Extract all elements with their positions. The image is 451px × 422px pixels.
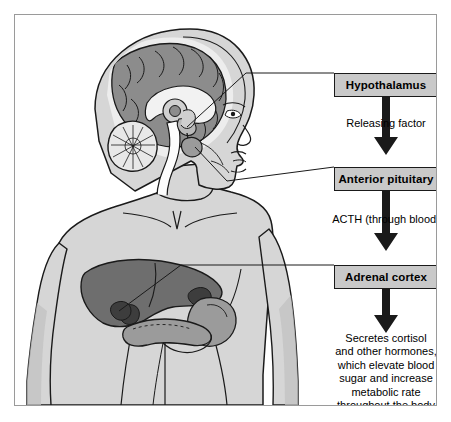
outcome-line-5: metabolic rate (311, 386, 437, 399)
arrow-secretion (374, 289, 398, 333)
flow-box-anterior-pituitary[interactable]: Anterior pituitary (334, 167, 437, 191)
outcome-line-4: sugar and increase (311, 372, 437, 385)
flow-box-adrenal-cortex[interactable]: Adrenal cortex (334, 265, 437, 289)
outcome-text-block: Secretes cortisol and other hormones, wh… (311, 332, 437, 406)
outcome-line-3: which elevate blood (311, 359, 437, 372)
flow-box-hypothalamus-label: Hypothalamus (346, 79, 426, 91)
flow-box-hypothalamus[interactable]: Hypothalamus (334, 73, 437, 97)
flow-box-adrenal-cortex-label: Adrenal cortex (345, 271, 427, 283)
outcome-line-1: Secretes cortisol (311, 332, 437, 345)
flow-box-anterior-pituitary-label: Anterior pituitary (338, 173, 433, 185)
figure-canvas: Hypothalamus Anterior pituitary Adrenal … (0, 0, 451, 422)
outcome-line-6: throughout the body (311, 399, 437, 406)
outcome-line-2: and other hormones, (311, 345, 437, 358)
figure-frame: Hypothalamus Anterior pituitary Adrenal … (14, 14, 437, 406)
caption-releasing-factor: Releasing factor (316, 117, 437, 130)
caption-acth: ACTH (through blood) (316, 213, 437, 226)
